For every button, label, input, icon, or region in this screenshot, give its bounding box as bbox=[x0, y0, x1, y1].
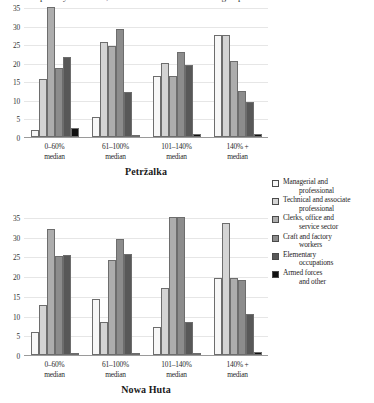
x-axis-nowa-huta: 0–60%median61–100%median101–140%median14… bbox=[24, 360, 268, 380]
bar bbox=[124, 254, 132, 355]
bar bbox=[161, 288, 169, 355]
bar bbox=[108, 260, 116, 355]
legend-swatch-icon bbox=[272, 235, 279, 242]
y-tick-label: 30 bbox=[13, 22, 20, 31]
x-tick-label: 61–100%median bbox=[85, 142, 146, 162]
bar bbox=[63, 255, 71, 355]
bar bbox=[39, 305, 47, 355]
bar-group bbox=[146, 218, 207, 355]
y-tick-label: 5 bbox=[17, 332, 21, 341]
bar bbox=[193, 134, 201, 137]
bar-groups bbox=[24, 8, 268, 137]
legend-label: Craft and factoryworkers bbox=[283, 233, 332, 250]
bar bbox=[71, 353, 79, 355]
bar bbox=[132, 353, 140, 355]
bar-groups bbox=[24, 218, 268, 355]
y-axis-nowa-huta: 05101520253035 bbox=[0, 218, 22, 356]
bar-group bbox=[146, 8, 207, 137]
bar bbox=[100, 42, 108, 137]
bar bbox=[116, 239, 124, 355]
y-tick-label: 10 bbox=[13, 96, 20, 105]
bar bbox=[230, 61, 238, 137]
bar bbox=[31, 332, 39, 355]
y-tick-label: 15 bbox=[13, 292, 20, 301]
bar bbox=[193, 353, 201, 355]
bar bbox=[100, 322, 108, 356]
bar bbox=[169, 217, 177, 355]
chart-title-petrzalka: Petržalka bbox=[24, 166, 268, 177]
bar bbox=[55, 256, 63, 355]
bar-group bbox=[24, 218, 85, 355]
bar bbox=[116, 29, 124, 137]
bar bbox=[238, 280, 246, 355]
legend-item: Elementaryoccupations bbox=[272, 251, 374, 268]
x-axis-petrzalka: 0–60%median61–100%median101–140%median14… bbox=[24, 142, 268, 162]
bar bbox=[47, 7, 55, 137]
bar bbox=[214, 278, 222, 355]
legend-swatch-icon bbox=[272, 198, 279, 205]
chart-panel-petrzalka: 05101520253035 0–60%median61–100%median1… bbox=[0, 8, 374, 193]
bar bbox=[153, 76, 161, 137]
x-tick-label: 140% +median bbox=[207, 360, 268, 380]
bars-nowa-huta bbox=[24, 218, 268, 356]
chart-legend: Managerial andprofessionalTechnical and … bbox=[272, 178, 374, 287]
x-tick-label: 61–100%median bbox=[85, 360, 146, 380]
x-tick-label: 101–140%median bbox=[146, 360, 207, 380]
legend-swatch-icon bbox=[272, 180, 279, 187]
y-tick-label: 30 bbox=[13, 233, 20, 242]
bar bbox=[177, 52, 185, 137]
legend-item: Technical and associateprofessional bbox=[272, 196, 374, 213]
legend-label: Managerial andprofessional bbox=[283, 178, 334, 195]
bar bbox=[153, 327, 161, 355]
legend-label: Technical and associateprofessional bbox=[283, 196, 350, 213]
legend-swatch-icon bbox=[272, 253, 279, 260]
bar-group bbox=[207, 8, 268, 137]
bar-group bbox=[24, 8, 85, 137]
bar bbox=[31, 130, 39, 137]
bar bbox=[246, 102, 254, 137]
legend-label: Clerks, office andservice sector bbox=[283, 214, 338, 231]
y-tick-label: 25 bbox=[13, 41, 20, 50]
y-tick-label: 20 bbox=[13, 59, 20, 68]
y-tick-label: 25 bbox=[13, 253, 20, 262]
bar bbox=[246, 314, 254, 355]
bar bbox=[124, 92, 132, 137]
y-tick-label: 15 bbox=[13, 78, 20, 87]
bar bbox=[92, 117, 100, 137]
y-tick-label: 35 bbox=[13, 4, 20, 13]
bar bbox=[230, 278, 238, 355]
bar bbox=[222, 223, 230, 355]
x-tick-label: 101–140%median bbox=[146, 142, 207, 162]
bar bbox=[132, 135, 140, 137]
bar-group bbox=[85, 8, 146, 137]
legend-item: Clerks, office andservice sector bbox=[272, 214, 374, 231]
y-tick-label: 20 bbox=[13, 273, 20, 282]
bar-group bbox=[85, 218, 146, 355]
legend-item: Armed forcesand other bbox=[272, 269, 374, 286]
legend-item: Managerial andprofessional bbox=[272, 178, 374, 195]
y-tick-label: 35 bbox=[13, 214, 20, 223]
legend-swatch-icon bbox=[272, 216, 279, 223]
bar bbox=[92, 299, 100, 355]
y-tick-label: 5 bbox=[17, 115, 21, 124]
bar bbox=[63, 57, 71, 137]
x-tick-label: 140% +median bbox=[207, 142, 268, 162]
bar bbox=[254, 134, 262, 137]
bar bbox=[177, 217, 185, 355]
bar bbox=[47, 229, 55, 355]
x-tick-label: 0–60%median bbox=[24, 360, 85, 380]
figure-caption: in relative poverty risk levels, educati… bbox=[2, 0, 246, 2]
bar bbox=[254, 352, 262, 355]
y-tick-label: 10 bbox=[13, 312, 20, 321]
bar bbox=[185, 322, 193, 356]
bar bbox=[214, 35, 222, 137]
legend-item: Craft and factoryworkers bbox=[272, 233, 374, 250]
legend-label: Elementaryoccupations bbox=[283, 251, 333, 268]
bar bbox=[108, 46, 116, 137]
y-tick-label: 0 bbox=[17, 134, 21, 143]
bars-petrzalka bbox=[24, 8, 268, 138]
bar bbox=[39, 79, 47, 137]
bar bbox=[55, 68, 63, 137]
legend-swatch-icon bbox=[272, 271, 279, 278]
bar bbox=[71, 128, 79, 137]
